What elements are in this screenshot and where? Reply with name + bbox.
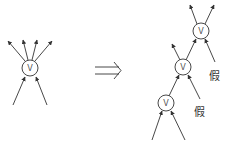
left-diagram: V: [8, 40, 52, 105]
outgoing-arrow: [190, 5, 197, 24]
outgoing-arrow: [23, 40, 28, 60]
incoming-arrow: [13, 77, 25, 105]
or-node-label: V: [163, 99, 169, 108]
outgoing-arrow: [35, 41, 52, 61]
outgoing-arrow: [32, 40, 37, 60]
implies-arrow: [95, 62, 121, 79]
incoming-arrow: [171, 111, 185, 140]
false-label: 假: [194, 105, 205, 119]
or-node: V: [22, 60, 38, 76]
outgoing-arrow: [8, 41, 25, 61]
false-input-arrow: [205, 39, 215, 62]
or-node-label: V: [180, 63, 186, 72]
incoming-arrow: [36, 77, 47, 105]
chain-arrow: [169, 75, 179, 96]
right-diagram: V V V 假 假: [152, 5, 220, 140]
incoming-arrow: [152, 111, 162, 140]
outgoing-arrow: [205, 5, 214, 24]
or-node-label: V: [27, 64, 33, 73]
false-label: 假: [209, 69, 220, 83]
or-node-top: V: [193, 23, 209, 39]
or-node-middle: V: [175, 59, 191, 75]
or-node-label: V: [198, 27, 204, 36]
outgoing-arrow: [172, 44, 180, 60]
false-input-arrow: [188, 75, 200, 99]
chain-arrow: [186, 39, 196, 60]
or-node-bottom: V: [158, 95, 174, 111]
transformation-diagram: V V V V: [0, 0, 231, 150]
